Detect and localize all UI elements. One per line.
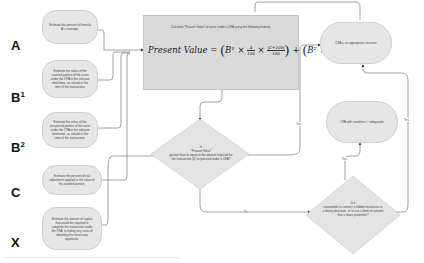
- formula-caption: Calculate "Present Value" of asset under…: [144, 25, 298, 29]
- outcome-top: CFA is an appropriate structure: [320, 22, 392, 64]
- bottom-divider: [5, 257, 180, 258]
- fraction-c: (C+100)100: [267, 45, 284, 56]
- edge-label-yes-2: Yes: [342, 157, 347, 161]
- label-b2-sup: 2: [20, 140, 24, 149]
- paren-close: ): [285, 43, 290, 58]
- input-box-c: Estimate the percent of risk adjustment …: [42, 165, 102, 195]
- label-b1: B1: [11, 90, 25, 105]
- formula-plus: +: [292, 45, 299, 55]
- input-box-x: Estimate the amount of capital that woul…: [42, 207, 102, 250]
- decision-2-text: Is it reasonable to connect a hidden dis…: [322, 201, 384, 217]
- edge-label-yes-1: Yes: [296, 122, 301, 126]
- formula-b1: B¹: [225, 45, 235, 55]
- formula-box: Calculate "Present Value" of asset under…: [143, 15, 299, 90]
- formula-lhs: Present Value: [148, 45, 207, 55]
- label-a: A: [11, 38, 20, 53]
- label-c: C: [11, 185, 20, 200]
- decision-2-line2: reasonable to connect a hidden disclosur…: [322, 205, 384, 217]
- input-b1-text: Estimate the value of the covered portio…: [49, 69, 91, 89]
- fraction-a: A100: [247, 45, 255, 56]
- input-box-a: Estimate the percent of formula A's cove…: [42, 10, 98, 44]
- outcome-top-text: CFA is an appropriate structure: [335, 41, 376, 45]
- input-x-text: Estimate the amount of capital that woul…: [49, 217, 95, 241]
- formula-eq: =: [210, 45, 217, 55]
- frac-c-den: 100: [267, 51, 284, 56]
- label-b2: B2: [11, 140, 25, 155]
- label-x: X: [11, 235, 20, 250]
- input-b2-text: Estimate the value of the uncovered port…: [49, 120, 91, 140]
- decision-1-text: Is "Present Value" greater than or equal…: [168, 145, 234, 161]
- input-box-b1: Estimate the value of the covered portio…: [42, 60, 98, 98]
- label-b2-base: B: [11, 140, 20, 155]
- formula-times-2: ×: [258, 45, 265, 55]
- input-box-b2: Estimate the value of the uncovered port…: [42, 112, 98, 148]
- frac-a-den: 100: [247, 51, 255, 56]
- input-a-text: Estimate the percent of formula A's cove…: [49, 23, 91, 31]
- decision-1-line3: greater than or equal to the amount requ…: [168, 153, 234, 161]
- outcome-middle: CFA with conditions / safeguards: [326, 101, 398, 143]
- input-c-text: Estimate the percent of risk adjustment …: [49, 174, 95, 186]
- edge-label-yes-3: Yes: [404, 118, 409, 122]
- formula-b2: B²: [307, 45, 317, 55]
- formula-times-1: ×: [237, 45, 244, 55]
- label-b1-base: B: [11, 90, 20, 105]
- edge-label-no-1: No: [244, 210, 248, 214]
- label-b1-sup: 1: [20, 90, 24, 99]
- outcome-middle-text: CFA with conditions / safeguards: [340, 120, 384, 124]
